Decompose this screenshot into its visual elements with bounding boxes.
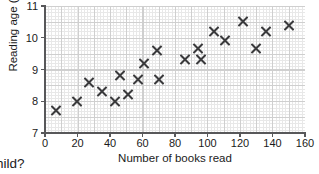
y-axis-tick [41,132,45,133]
x-axis-tick-label: 160 [296,137,314,149]
scatter-plot-figure: 0204060801001201401607891011 Number of b… [0,0,319,174]
x-axis-tick-label: 60 [136,137,148,149]
major-gridlines [45,6,305,133]
y-axis-tick-label: 7 [32,127,38,139]
x-axis-tick-label: 40 [104,137,116,149]
y-axis-tick [41,37,45,38]
y-axis-tick-label: 11 [27,0,38,12]
x-axis-tick-label: 140 [263,137,281,149]
x-axis-tick-label: 100 [198,137,216,149]
y-axis-tick [41,69,45,70]
x-axis-title: Number of books read [45,152,305,165]
x-axis-tick-label: 80 [169,137,181,149]
y-axis-title: Reading age (years) [7,0,20,80]
y-axis-tick-label: 8 [32,95,38,107]
y-axis-tick [41,101,45,102]
y-axis-tick-label: 9 [32,64,38,76]
y-axis-tick [41,5,45,6]
x-axis-tick-label: 0 [42,137,48,149]
x-axis-tick-label: 20 [71,137,83,149]
caption-text-fragment: hild? [0,156,25,172]
x-axis-tick-label: 120 [231,137,249,149]
plot-area [45,6,305,133]
y-axis-tick-label: 10 [26,32,38,44]
